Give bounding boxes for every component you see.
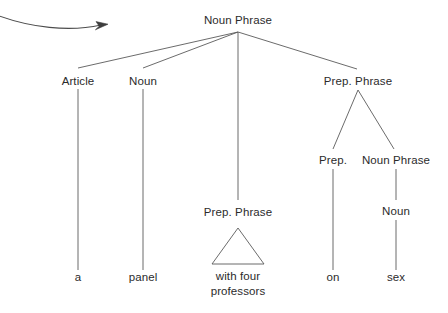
edge-pp-to-inner-np <box>358 90 394 149</box>
arrow-shaft <box>0 14 101 28</box>
tree-lines-canvas <box>0 0 448 313</box>
syntax-tree-diagram: Noun Phrase Article Noun Prep. Phrase Pr… <box>0 0 448 313</box>
ellipsis-triangle <box>212 228 264 264</box>
edge-pp-to-prep <box>333 90 358 149</box>
edge-root-to-right-pp <box>238 32 357 69</box>
curved-pointer-arrow <box>0 14 108 30</box>
